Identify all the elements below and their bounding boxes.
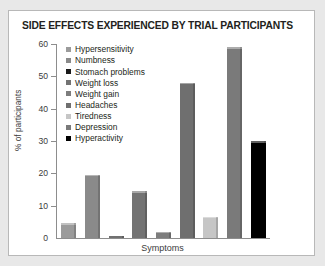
bar-slot xyxy=(203,44,218,238)
bar[interactable] xyxy=(85,175,100,238)
legend-swatch-icon xyxy=(66,47,71,52)
legend-item-headaches[interactable]: Headaches xyxy=(66,99,186,110)
y-axis-title: % of participants xyxy=(13,90,23,151)
legend-swatch-icon xyxy=(66,80,71,85)
bar-side-shadow xyxy=(122,236,124,238)
y-axis-tick xyxy=(51,141,56,142)
bar[interactable] xyxy=(109,236,124,238)
legend-item-label: Weight gain xyxy=(75,90,119,98)
legend-item-depression[interactable]: Depression xyxy=(66,122,186,133)
x-axis-title: Symptoms xyxy=(9,243,316,253)
legend-item-label: Headaches xyxy=(75,101,117,109)
y-axis-tick xyxy=(51,173,56,174)
legend-item-weight-loss[interactable]: Weight loss xyxy=(66,77,186,88)
legend-item-label: Hyperactivity xyxy=(75,134,123,142)
legend-swatch-icon xyxy=(66,69,71,74)
x-axis-line xyxy=(56,238,270,239)
bar-side-shadow xyxy=(169,232,171,238)
legend-swatch-icon xyxy=(66,103,71,108)
bar-slot xyxy=(227,44,242,238)
chart-legend: HypersensitivityNumbnessStomach problems… xyxy=(66,44,186,144)
bar[interactable] xyxy=(203,217,218,238)
y-axis-tick-label: 0 xyxy=(43,233,48,243)
bar-side-shadow xyxy=(145,191,147,238)
y-axis-tick-label: 30 xyxy=(38,136,48,146)
bar-side-shadow xyxy=(240,47,242,238)
y-axis-tick-label: 10 xyxy=(38,201,48,211)
chart-card: SIDE EFFECTS EXPERIENCED BY TRIAL PARTIC… xyxy=(8,10,315,256)
legend-swatch-icon xyxy=(66,125,71,130)
bar[interactable] xyxy=(251,141,266,238)
legend-item-weight-gain[interactable]: Weight gain xyxy=(66,88,186,99)
y-axis-tick xyxy=(51,76,56,77)
bar-side-shadow xyxy=(74,223,76,238)
y-axis-tick-label: 40 xyxy=(38,104,48,114)
legend-swatch-icon xyxy=(66,136,71,141)
y-axis-tick-label: 50 xyxy=(38,71,48,81)
legend-item-label: Hypersensitivity xyxy=(75,45,134,53)
legend-item-hypersensitivity[interactable]: Hypersensitivity xyxy=(66,44,186,55)
bar-side-shadow xyxy=(98,175,100,238)
bar-side-shadow xyxy=(264,141,266,238)
y-axis-tick xyxy=(51,109,56,110)
legend-swatch-icon xyxy=(66,58,71,63)
legend-item-numbness[interactable]: Numbness xyxy=(66,55,186,66)
legend-swatch-icon xyxy=(66,114,71,119)
y-axis-tick-label: 20 xyxy=(38,168,48,178)
bar-slot xyxy=(251,44,266,238)
chart-title: SIDE EFFECTS EXPERIENCED BY TRIAL PARTIC… xyxy=(22,20,307,31)
legend-item-label: Tiredness xyxy=(75,112,111,120)
legend-item-label: Numbness xyxy=(75,56,115,64)
y-axis-tick-label: 60 xyxy=(38,39,48,49)
legend-item-label: Stomach problems xyxy=(75,68,145,76)
bar[interactable] xyxy=(132,191,147,238)
legend-item-stomach-problems[interactable]: Stomach problems xyxy=(66,66,186,77)
bar-side-shadow xyxy=(216,217,218,238)
y-axis-tick xyxy=(51,44,56,45)
legend-item-label: Depression xyxy=(75,123,117,131)
legend-item-hyperactivity[interactable]: Hyperactivity xyxy=(66,133,186,144)
bar[interactable] xyxy=(227,47,242,238)
bar-side-shadow xyxy=(193,83,195,238)
legend-item-tiredness[interactable]: Tiredness xyxy=(66,111,186,122)
y-axis-tick xyxy=(51,206,56,207)
bar[interactable] xyxy=(61,223,76,238)
bar[interactable] xyxy=(156,232,171,238)
legend-swatch-icon xyxy=(66,91,71,96)
legend-item-label: Weight loss xyxy=(75,79,118,87)
